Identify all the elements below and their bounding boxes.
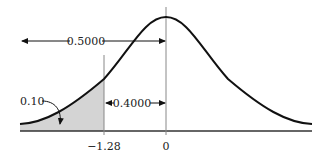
tail-area-label: 0.10 xyxy=(20,95,45,108)
tick-label-zero: 0 xyxy=(163,140,170,153)
half-area-label: 0.5000 xyxy=(67,35,106,48)
middle-area-label: 0.4000 xyxy=(113,97,152,110)
normal-curve-diagram: 0.5000 0.4000 0.10 −1.28 0 xyxy=(0,0,327,157)
tick-label-z: −1.28 xyxy=(87,140,121,153)
